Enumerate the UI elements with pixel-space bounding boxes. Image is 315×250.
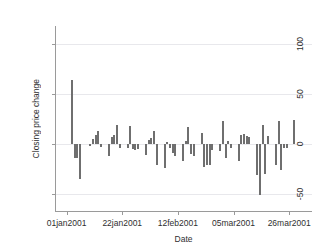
- x-tick-05mar2001: [234, 211, 235, 215]
- bar: [219, 144, 221, 151]
- gridline--50: [56, 194, 312, 195]
- y-tick-label--50: -50: [296, 188, 305, 200]
- bar: [137, 144, 139, 149]
- x-axis-title: Date: [55, 234, 312, 244]
- bar: [225, 144, 227, 158]
- plot-area: 100500-50 01jan200122jan200112feb200105m…: [55, 26, 312, 212]
- bar: [275, 144, 277, 165]
- y-tick-label-100: 100: [296, 37, 305, 51]
- y-tick-0: [52, 144, 56, 145]
- bar: [187, 127, 189, 144]
- bar: [164, 144, 166, 168]
- bar: [264, 144, 266, 174]
- x-tick-label-12feb2001: 12feb2001: [158, 218, 198, 228]
- x-tick-label-26mar2001: 26mar2001: [268, 218, 311, 228]
- x-tick-22jan2001: [122, 211, 123, 215]
- bar: [174, 144, 176, 156]
- bar: [267, 136, 269, 144]
- y-tick-label-50: 50: [296, 89, 305, 98]
- x-tick-label-22jan2001: 22jan2001: [102, 218, 142, 228]
- bar: [230, 144, 232, 148]
- bar: [97, 131, 99, 144]
- x-tick-12feb2001: [178, 211, 179, 215]
- bar: [248, 137, 250, 144]
- bar: [127, 144, 129, 148]
- chart-screenshot: Closing price change 100500-50 01jan2001…: [0, 0, 315, 250]
- bar: [116, 125, 118, 144]
- bar: [211, 144, 213, 150]
- bar: [71, 80, 73, 144]
- x-tick-label-05mar2001: 05mar2001: [212, 218, 255, 228]
- bar: [182, 144, 184, 161]
- bar: [119, 144, 121, 148]
- bar: [100, 144, 102, 147]
- bar: [259, 144, 261, 195]
- bar: [193, 144, 195, 156]
- gridline-50: [56, 94, 312, 95]
- y-tick-100: [52, 44, 56, 45]
- x-tick-01jan2001: [67, 211, 68, 215]
- bar: [129, 126, 131, 144]
- bar: [156, 144, 158, 165]
- y-axis-title-label: Closing price change: [31, 79, 41, 158]
- bar: [293, 120, 295, 144]
- y-tick--50: [52, 194, 56, 195]
- graph-region: Closing price change 100500-50 01jan2001…: [10, 8, 305, 242]
- bar: [153, 131, 155, 144]
- bar: [201, 133, 203, 144]
- bar: [286, 144, 288, 148]
- bar: [278, 121, 280, 144]
- bar: [238, 144, 240, 161]
- y-tick-label-0: 0: [296, 142, 305, 147]
- bar: [108, 144, 110, 156]
- bar: [89, 144, 91, 146]
- y-tick-50: [52, 94, 56, 95]
- bar: [79, 144, 81, 179]
- bar: [262, 125, 264, 144]
- y-axis-title: Closing price change: [30, 26, 42, 212]
- x-tick-label-01jan2001: 01jan2001: [47, 218, 87, 228]
- bar: [222, 121, 224, 144]
- x-tick-26mar2001: [289, 211, 290, 215]
- bar: [145, 144, 147, 155]
- gridline-100: [56, 44, 312, 45]
